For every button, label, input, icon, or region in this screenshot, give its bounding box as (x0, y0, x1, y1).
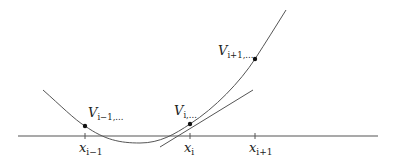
tick-1: xi (184, 133, 194, 157)
point-0: Vi−1,... (83, 105, 124, 128)
point-1: Vi,... (174, 103, 197, 126)
point-2: Vi+1,... (218, 43, 257, 61)
tick-label: xi (184, 140, 194, 157)
axis-ticks: xi−1xixi+1 (79, 133, 273, 157)
point-dot (188, 122, 192, 126)
node-points: Vi−1,...Vi,...Vi+1,... (83, 43, 257, 128)
tick-0: xi−1 (79, 133, 103, 157)
point-label: Vi−1,... (88, 105, 123, 122)
tick-label: xi+1 (249, 140, 273, 157)
tick-label: xi−1 (79, 140, 103, 157)
point-label: Vi,... (174, 103, 197, 120)
tick-2: xi+1 (249, 133, 273, 157)
point-label: Vi+1,... (218, 43, 253, 60)
point-dot (83, 124, 87, 128)
tangent-line (160, 90, 253, 147)
point-dot (253, 57, 257, 61)
interpolation-diagram: xi−1xixi+1 Vi−1,...Vi,...Vi+1,... (0, 0, 397, 160)
convex-curve (43, 10, 286, 143)
